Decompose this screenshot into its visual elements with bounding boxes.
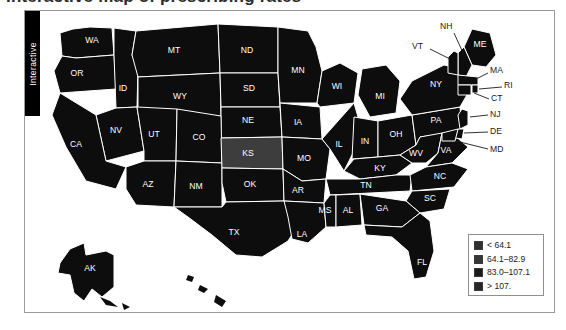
state-MA (458, 75, 478, 85)
legend-swatch-1 (474, 241, 483, 250)
state-label-GA: GA (376, 203, 389, 213)
state-label-NV: NV (110, 125, 122, 135)
state-label-WV: WV (409, 148, 423, 158)
legend-label-2: 64.1–82.9 (487, 255, 525, 264)
legend-label-4: > 107. (487, 282, 511, 291)
legend-swatch-3 (474, 268, 483, 277)
alaska-aleutians (100, 297, 130, 310)
callout-label-DE: DE (490, 126, 502, 136)
alaska-hawaii-layer (58, 243, 226, 310)
state-label-PA: PA (431, 115, 442, 125)
figure-root: Interactive map of prescribing rates Int… (0, 0, 566, 330)
state-label-FL: FL (417, 257, 427, 267)
state-label-ND: ND (241, 45, 253, 55)
callout-label-NJ: NJ (490, 109, 501, 119)
state-label-OK: OK (244, 179, 257, 189)
state-label-MT: MT (168, 45, 181, 55)
state-label-AR: AR (292, 185, 304, 195)
callout-label-RI: RI (504, 80, 513, 90)
map-legend: < 64.1 64.1–82.9 83.0–107.1 > 107. (468, 234, 544, 296)
callout-label-CT: CT (491, 93, 503, 103)
state-label-UT: UT (148, 129, 160, 139)
legend-item[interactable]: < 64.1 (474, 239, 543, 253)
legend-label-3: 83.0–107.1 (487, 268, 530, 277)
state-label-WA: WA (85, 35, 99, 45)
legend-item[interactable]: 64.1–82.9 (474, 253, 543, 267)
callout-label-MD: MD (490, 144, 503, 154)
callout-line-MA (476, 73, 488, 79)
state-label-AZ: AZ (143, 179, 154, 189)
state-label-CA: CA (70, 139, 82, 149)
state-label-NM: NM (189, 181, 202, 191)
callout-label-VT: VT (412, 41, 424, 51)
state-VT (448, 51, 458, 75)
state-label-TN: TN (360, 180, 371, 190)
callout-label-NH: NH (440, 21, 452, 31)
state-label-NC: NC (434, 171, 446, 181)
legend-swatch-4 (474, 282, 483, 291)
state-label-VA: VA (441, 145, 452, 155)
state-label-SD: SD (243, 83, 255, 93)
state-label-MI: MI (375, 91, 385, 101)
state-label-MO: MO (297, 153, 311, 163)
legend-item[interactable]: > 107. (474, 280, 543, 294)
state-label-IA: IA (294, 117, 302, 127)
legend-swatch-2 (474, 255, 483, 264)
state-label-KY: KY (374, 163, 386, 173)
state-label-ID: ID (119, 83, 128, 93)
state-label-KS: KS (242, 148, 254, 158)
callout-line-VT (430, 49, 450, 59)
callout-line-NJ (470, 115, 488, 117)
state-NJ (458, 109, 468, 129)
state-label-IL: IL (335, 139, 342, 149)
state-label-OR: OR (71, 68, 84, 78)
state-CT (458, 85, 471, 95)
state-label-AL: AL (343, 205, 354, 215)
state-label-IN: IN (361, 136, 370, 146)
state-HI (186, 275, 226, 307)
state-label-MN: MN (291, 65, 304, 75)
callout-line-DE (464, 132, 488, 133)
state-label-AK: AK (84, 263, 96, 273)
state-label-NY: NY (430, 79, 442, 89)
legend-item[interactable]: 83.0–107.1 (474, 266, 543, 280)
callout-line-RI (479, 87, 502, 89)
state-label-MS: MS (319, 205, 332, 215)
cropped-heading-text: Interactive map of prescribing rates (6, 0, 301, 7)
state-label-WY: WY (173, 91, 187, 101)
state-RI (472, 85, 478, 93)
state-label-ME: ME (474, 39, 487, 49)
callout-label-MA: MA (490, 65, 503, 75)
callout-line-CT (474, 93, 489, 99)
contiguous-states-layer (52, 24, 496, 279)
state-label-OH: OH (390, 129, 403, 139)
cropped-heading-strip: Interactive map of prescribing rates (0, 0, 566, 7)
state-label-WI: WI (332, 81, 343, 91)
state-label-NE: NE (242, 115, 254, 125)
interactive-tab-label: Interactive (28, 42, 38, 86)
state-OR (54, 55, 116, 93)
interactive-tab[interactable]: Interactive (25, 11, 40, 116)
state-label-LA: LA (297, 229, 308, 239)
state-label-SC: SC (424, 193, 436, 203)
legend-label-1: < 64.1 (487, 241, 511, 250)
state-label-CO: CO (193, 132, 206, 142)
state-label-TX: TX (229, 227, 240, 237)
